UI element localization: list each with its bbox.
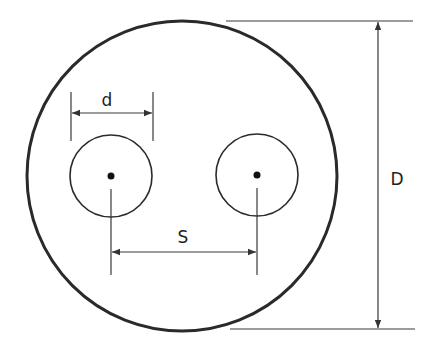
cable-cross-section-diagram: d S D — [0, 0, 429, 345]
outer-circle — [27, 21, 337, 331]
conductor-left-center-dot — [108, 173, 115, 180]
conductor-right-center-dot — [254, 172, 261, 179]
label-D: D — [390, 169, 403, 189]
label-s: S — [178, 227, 189, 247]
label-d: d — [102, 90, 113, 110]
